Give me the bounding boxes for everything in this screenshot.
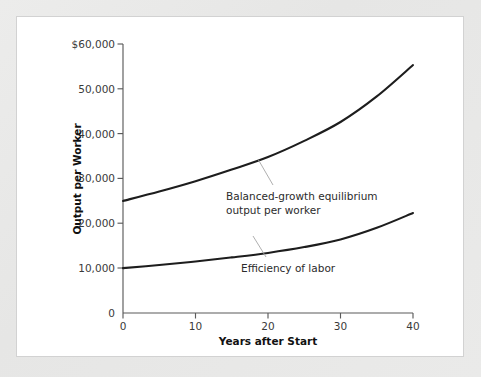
x-tick-label: 0 — [120, 320, 127, 332]
chart-canvas: $60,000 50,000 40,000 30,000 20,000 10,0… — [17, 17, 463, 356]
upper-annotation-line-1: Balanced-growth equilibrium — [226, 190, 378, 202]
x-tick-label: 20 — [261, 320, 274, 332]
series-line-efficiency-of-labor — [123, 213, 413, 268]
upper-annotation-line-2: output per worker — [226, 204, 321, 216]
x-tick-label: 10 — [189, 320, 202, 332]
y-tick-label: 0 — [108, 307, 115, 319]
x-axis-title: Years after Start — [218, 335, 317, 347]
y-tick-label: 40,000 — [78, 128, 115, 140]
y-tick-label: 10,000 — [78, 262, 115, 274]
series-line-balanced-growth-output — [123, 65, 413, 201]
y-axis-title: Output per Worker — [71, 123, 83, 235]
lower-annotation-line-1: Efficiency of labor — [241, 262, 336, 274]
figure-card: $60,000 50,000 40,000 30,000 20,000 10,0… — [17, 17, 463, 356]
y-tick-label: 30,000 — [78, 172, 115, 184]
y-tick-label: 50,000 — [78, 83, 115, 95]
upper-annotation-leader-line — [259, 160, 274, 185]
y-tick-label: $60,000 — [72, 38, 115, 50]
y-tick-label: 20,000 — [78, 217, 115, 229]
x-tick-label: 40 — [406, 320, 419, 332]
x-tick-label: 30 — [334, 320, 347, 332]
